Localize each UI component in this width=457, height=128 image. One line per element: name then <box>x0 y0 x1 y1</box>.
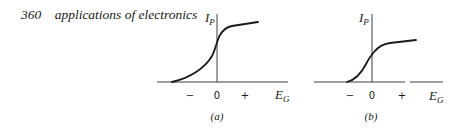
x-axis-label-a: EG <box>274 87 290 104</box>
figure-a: IP − 0 + EG (a) <box>157 10 290 123</box>
x-axis-label-b: EG <box>428 88 444 105</box>
tick-plus-a: + <box>241 90 249 101</box>
figure-b: IP − 0 + EG (b) <box>314 10 444 123</box>
tick-minus-a: − <box>186 90 194 101</box>
characteristic-curve-a <box>172 22 258 82</box>
y-axis-label-b: IP <box>358 10 369 27</box>
y-axis-label-a: IP <box>204 10 215 27</box>
caption-a: (a) <box>211 110 224 123</box>
tick-plus-b: + <box>398 90 406 101</box>
tick-minus-b: − <box>346 90 354 101</box>
tick-zero-a: 0 <box>214 90 220 101</box>
tick-zero-b: 0 <box>369 90 375 101</box>
characteristic-curve-b <box>347 40 416 82</box>
caption-b: (b) <box>365 110 378 123</box>
